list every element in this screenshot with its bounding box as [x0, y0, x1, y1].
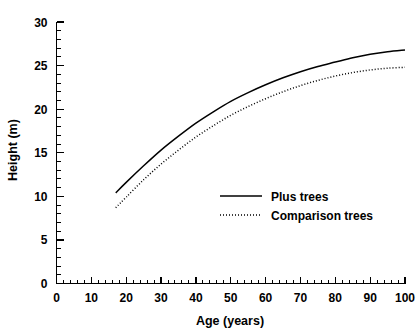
- y-tick-label: 30: [34, 16, 48, 30]
- series-line-1: [116, 50, 405, 193]
- x-axis-title: Age (years): [196, 314, 264, 328]
- y-axis-ticks: [57, 22, 64, 284]
- series-line-2: [116, 67, 405, 207]
- chart-container: 051015202530 0102030405060708090100 Plus…: [0, 0, 420, 334]
- x-axis-ticks: [57, 277, 406, 284]
- x-axis-tick-labels: 0102030405060708090100: [53, 291, 415, 305]
- legend-label-2: Comparison trees: [271, 209, 373, 223]
- line-chart: 051015202530 0102030405060708090100 Plus…: [0, 0, 420, 334]
- x-tick-label: 30: [154, 291, 168, 305]
- x-tick-label: 90: [363, 291, 377, 305]
- x-tick-label: 100: [395, 291, 415, 305]
- chart-legend: Plus treesComparison trees: [220, 190, 373, 223]
- x-tick-label: 0: [53, 291, 60, 305]
- x-tick-label: 10: [85, 291, 99, 305]
- x-tick-label: 80: [329, 291, 343, 305]
- x-tick-label: 50: [224, 291, 238, 305]
- x-tick-label: 70: [294, 291, 308, 305]
- x-tick-label: 20: [120, 291, 134, 305]
- y-tick-label: 25: [34, 59, 48, 73]
- y-tick-label: 0: [41, 277, 48, 291]
- y-tick-label: 15: [34, 146, 48, 160]
- y-axis-title: Height (m): [6, 119, 20, 181]
- legend-label-1: Plus trees: [271, 190, 329, 204]
- y-axis-tick-labels: 051015202530: [34, 16, 48, 292]
- x-tick-label: 60: [259, 291, 273, 305]
- chart-series: [116, 50, 405, 208]
- x-tick-label: 40: [189, 291, 203, 305]
- y-tick-label: 10: [34, 190, 48, 204]
- y-tick-label: 5: [41, 233, 48, 247]
- y-tick-label: 20: [34, 103, 48, 117]
- chart-axes: [57, 22, 406, 284]
